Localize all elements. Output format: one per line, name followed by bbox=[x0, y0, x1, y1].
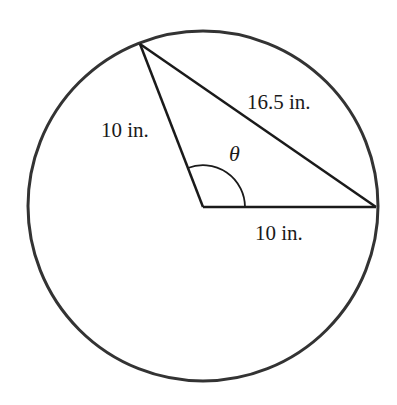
radius-bottom-label: 10 in. bbox=[255, 221, 303, 245]
angle-label: θ bbox=[229, 141, 240, 166]
radius-left-line bbox=[140, 44, 203, 207]
diagram-canvas: 10 in. 16.5 in. θ 10 in. bbox=[0, 0, 397, 405]
radius-left-label: 10 in. bbox=[101, 118, 149, 142]
angle-arc bbox=[188, 165, 245, 207]
chord-line bbox=[140, 44, 376, 207]
chord-label: 16.5 in. bbox=[247, 90, 311, 114]
